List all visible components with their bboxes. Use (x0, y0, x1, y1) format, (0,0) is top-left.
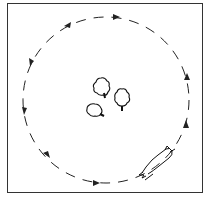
sheep-icon (115, 89, 130, 111)
circular-path (23, 17, 189, 183)
arrow-icon (22, 107, 27, 115)
arrow-icon (93, 180, 100, 186)
arrow-icon (113, 14, 120, 20)
direction-arrows (22, 14, 190, 186)
herding-diagram (0, 0, 210, 201)
dog-icon (139, 146, 175, 180)
arrow-icon (64, 22, 71, 28)
arrow-icon (183, 120, 189, 128)
sheep-icon (87, 104, 104, 117)
sheep-group (87, 78, 130, 116)
sheep-icon (93, 78, 109, 98)
arrow-icon (29, 58, 34, 66)
